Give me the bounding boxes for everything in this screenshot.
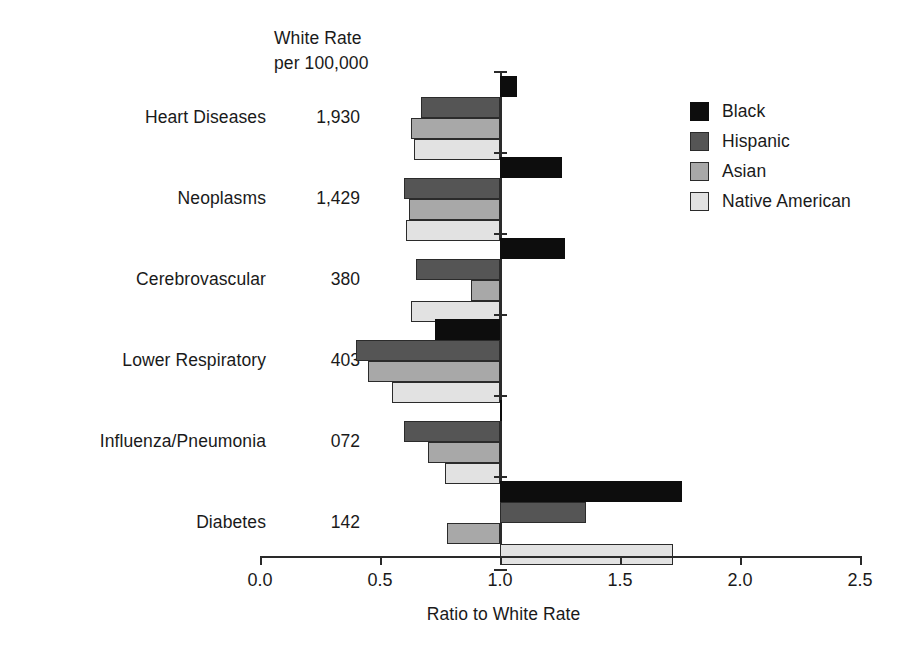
bar-asian (471, 280, 500, 301)
x-tick-label: 1.5 (585, 570, 655, 591)
legend-item: Hispanic (690, 126, 851, 156)
x-tick (860, 556, 862, 565)
bar-black (435, 319, 500, 340)
bar-black (500, 238, 565, 259)
legend-label: Native American (722, 191, 851, 212)
category-label: Influenza/Pneumonia (0, 431, 266, 452)
group-tick (494, 476, 507, 478)
bar-hispanic (404, 421, 500, 442)
group-tick (494, 71, 507, 73)
x-tick (380, 556, 382, 565)
bar-asian (428, 442, 500, 463)
bar-native-american (500, 544, 673, 565)
x-tick (260, 556, 262, 565)
bar-group (260, 481, 860, 565)
category-label: Cerebrovascular (0, 269, 266, 290)
bar-asian (447, 523, 500, 544)
bar-black (500, 481, 682, 502)
bar-group (260, 238, 860, 322)
legend-label: Black (722, 101, 765, 122)
group-tick (494, 395, 507, 397)
x-axis-line (260, 556, 860, 558)
bar-hispanic (416, 259, 500, 280)
x-tick-label: 1.0 (465, 570, 535, 591)
bar-group (260, 319, 860, 403)
category-label: Neoplasms (0, 188, 266, 209)
bar-hispanic (356, 340, 500, 361)
x-tick-label: 2.0 (705, 570, 775, 591)
bar-asian (409, 199, 500, 220)
legend-swatch-icon (690, 162, 709, 181)
x-tick-label: 0.5 (345, 570, 415, 591)
bar-hispanic (500, 502, 586, 523)
bar-black (500, 76, 517, 97)
rate-header-line-1: White Rate (274, 26, 444, 51)
bar-hispanic (404, 178, 500, 199)
bar-hispanic (421, 97, 500, 118)
group-tick (494, 314, 507, 316)
group-tick (494, 233, 507, 235)
ratio-to-white-rate-chart: White Rate per 100,000 Heart DiseasesNeo… (0, 0, 911, 668)
legend-label: Hispanic (722, 131, 790, 152)
bar-black (500, 400, 502, 421)
legend: BlackHispanicAsianNative American (690, 96, 851, 216)
category-label: Diabetes (0, 512, 266, 533)
category-label: Lower Respiratory (0, 350, 266, 371)
x-tick (740, 556, 742, 565)
x-tick (500, 556, 502, 565)
rate-column-header: White Rate per 100,000 (274, 26, 444, 76)
legend-label: Asian (722, 161, 766, 182)
bar-black (500, 157, 562, 178)
legend-item: Asian (690, 156, 851, 186)
x-tick (620, 556, 622, 565)
x-axis-title-text: Ratio to White Rate (427, 604, 581, 624)
x-tick-label: 2.5 (825, 570, 895, 591)
legend-swatch-icon (690, 132, 709, 151)
category-label: Heart Diseases (0, 107, 266, 128)
legend-swatch-icon (690, 102, 709, 121)
legend-item: Black (690, 96, 851, 126)
legend-item: Native American (690, 186, 851, 216)
legend-swatch-icon (690, 192, 709, 211)
bar-asian (368, 361, 500, 382)
group-tick (494, 152, 507, 154)
x-tick-label: 0.0 (225, 570, 295, 591)
bar-group (260, 400, 860, 484)
bar-asian (411, 118, 500, 139)
x-axis: 0.00.51.01.52.02.5 (260, 556, 860, 557)
x-axis-title: Ratio to White Rate (0, 604, 911, 625)
